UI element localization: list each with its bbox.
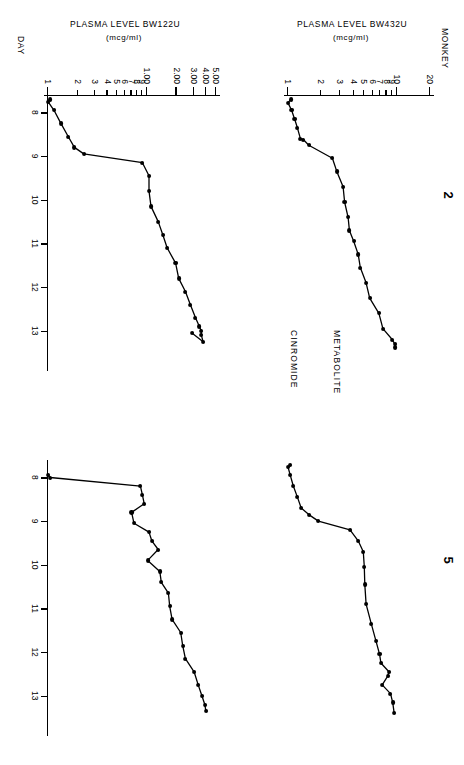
data-point-m5-met-11 <box>362 565 366 569</box>
data-point-m2-cin-21 <box>199 333 203 337</box>
y-tick-m2-met-8 <box>339 90 340 95</box>
data-point-m5-cin-5 <box>130 510 134 514</box>
data-point-m5-cin-8 <box>150 539 154 543</box>
data-point-m5-met-19 <box>386 674 390 678</box>
x-tick-label-m5-cin-0: 8 <box>31 475 40 480</box>
y-tick-m2-cin-8 <box>124 90 125 95</box>
y-axis-units-m2-met: (mcg/ml) <box>333 33 369 42</box>
data-point-m5-met-14 <box>369 622 373 626</box>
data-point-m2-met-1 <box>286 101 290 105</box>
data-point-m5-met-16 <box>378 652 382 656</box>
data-point-m2-met-17 <box>364 281 368 285</box>
data-point-m5-met-5 <box>299 506 303 510</box>
data-point-m2-cin-15 <box>177 276 181 280</box>
data-point-m5-cin-21 <box>200 694 204 698</box>
data-point-m2-met-19 <box>377 311 381 315</box>
data-point-m2-met-16 <box>358 265 362 269</box>
data-point-m2-met-15 <box>356 252 360 256</box>
data-point-m2-met-2 <box>290 108 294 112</box>
data-point-m2-met-23 <box>393 345 397 349</box>
y-tick-m2-cin-7 <box>130 90 131 95</box>
y-axis-title-m2-cin: PLASMA LEVEL BW122U <box>70 19 180 29</box>
data-point-m5-met-8 <box>348 528 352 532</box>
y-tick-m2-met-2 <box>391 90 392 95</box>
series-label-cinromide: CINROMIDE <box>289 330 299 389</box>
data-point-m2-cin-7 <box>140 161 144 165</box>
data-point-m5-met-15 <box>374 639 378 643</box>
x-tick-m2-cin-4 <box>41 287 48 288</box>
data-point-m5-cin-22 <box>203 702 207 706</box>
y-tick-m2-cin-5 <box>141 90 142 95</box>
figure-canvas: MONKEY 2 5 METABOLITE CINROMIDE DAY 2010… <box>0 0 464 765</box>
data-point-m2-cin-13 <box>165 246 169 250</box>
data-point-m5-met-13 <box>364 602 368 606</box>
y-tick-m2-met-9 <box>320 90 321 95</box>
x-tick-m2-cin-1 <box>41 156 48 157</box>
x-axis-line-m2-cin <box>47 95 48 371</box>
x-tick-label-m2-cin-0: 8 <box>31 110 40 115</box>
data-point-m2-cin-6 <box>82 152 86 156</box>
y-tick-m2-cin-11 <box>94 90 95 95</box>
y-tick-m2-met-5 <box>372 90 373 95</box>
data-point-m5-cin-2 <box>138 484 142 488</box>
y-tick-m2-cin-9 <box>116 90 117 95</box>
data-point-m2-cin-2 <box>52 108 56 112</box>
data-point-m2-met-20 <box>381 327 385 331</box>
y-tick-m2-met-10 <box>287 87 288 95</box>
data-point-m5-cin-1 <box>48 475 52 479</box>
x-tick-label-m5-cin-5: 13 <box>31 691 40 700</box>
y-tick-m2-met-6 <box>363 90 364 95</box>
data-point-m5-cin-7 <box>147 530 151 534</box>
y-tick-m2-met-3 <box>385 90 386 95</box>
data-point-m5-met-4 <box>295 495 299 499</box>
data-point-m2-cin-5 <box>72 145 76 149</box>
data-point-m2-cin-9 <box>147 189 151 193</box>
data-line-m2-met <box>0 0 464 765</box>
y-tick-m2-met-7 <box>353 90 354 95</box>
data-point-m2-met-6 <box>301 137 305 141</box>
x-tick-label-m2-cin-2: 10 <box>31 195 40 204</box>
x-tick-label-m5-cin-3: 11 <box>31 604 40 613</box>
data-point-m5-cin-23 <box>204 709 208 713</box>
rotated-figure-wrapper: MONKEY 2 5 METABOLITE CINROMIDE DAY 2010… <box>0 0 464 765</box>
x-tick-label-m2-cin-5: 13 <box>31 326 40 335</box>
data-point-m5-met-22 <box>391 700 395 704</box>
data-point-m5-cin-13 <box>166 591 170 595</box>
x-tick-m5-cin-0 <box>41 477 48 478</box>
data-point-m5-cin-11 <box>158 569 162 573</box>
y-axis-line-m2-met <box>284 95 434 96</box>
y-tick-m2-cin-4 <box>146 87 147 95</box>
data-line-m2-cin <box>0 0 464 765</box>
data-point-m2-met-13 <box>347 228 351 232</box>
y-tick-label-m2-cin-2: 3.00 <box>190 53 199 84</box>
data-line-m5-cin <box>0 0 464 765</box>
x-tick-label-m5-cin-1: 9 <box>31 519 40 524</box>
y-tick-label-m2-met-7: 4 <box>349 53 358 84</box>
data-point-m2-cin-17 <box>188 303 192 307</box>
data-point-m5-cin-20 <box>196 683 200 687</box>
y-tick-label-m2-met-9: 2 <box>317 53 326 84</box>
y-tick-m2-cin-6 <box>136 90 137 95</box>
y-tick-m2-cin-1 <box>205 87 206 95</box>
data-point-m2-cin-22 <box>201 340 205 344</box>
y-tick-label-m2-cin-11: 3 <box>91 53 100 84</box>
y-tick-m2-cin-10 <box>106 90 107 95</box>
y-tick-label-m2-met-0: 20 <box>426 53 435 84</box>
y-tick-m2-cin-12 <box>77 90 78 95</box>
data-point-m2-cin-8 <box>147 174 151 178</box>
data-point-m5-cin-19 <box>192 670 196 674</box>
y-tick-m2-met-0 <box>429 87 430 95</box>
x-tick-label-m2-cin-4: 12 <box>31 282 40 291</box>
y-tick-m2-cin-3 <box>175 87 176 95</box>
data-point-m5-met-21 <box>388 692 392 696</box>
data-point-m2-cin-3 <box>59 121 63 125</box>
data-point-m5-cin-9 <box>156 547 160 551</box>
series-label-metabolite: METABOLITE <box>332 330 342 394</box>
y-tick-label-m2-met-8: 3 <box>336 53 345 84</box>
data-point-m5-cin-10 <box>146 558 150 562</box>
data-point-m2-met-4 <box>295 126 299 130</box>
y-tick-m2-met-4 <box>379 90 380 95</box>
data-point-m2-cin-18 <box>193 316 197 320</box>
data-point-m2-cin-16 <box>183 289 187 293</box>
data-point-m2-met-10 <box>341 185 345 189</box>
